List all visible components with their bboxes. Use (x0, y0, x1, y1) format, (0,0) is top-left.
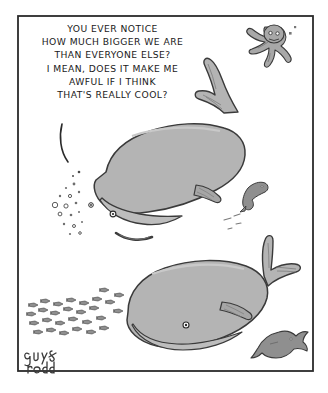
cartoon-artwork (0, 0, 328, 393)
speech-pointer-dot-2 (78, 171, 81, 174)
octopus-eye-left (269, 31, 272, 34)
octopus-eye-right (276, 32, 279, 35)
speech-pointer-dot-1 (72, 175, 74, 177)
cartoon-panel: YOU EVER NOTICE HOW MUCH BIGGER WE ARE T… (0, 0, 328, 393)
